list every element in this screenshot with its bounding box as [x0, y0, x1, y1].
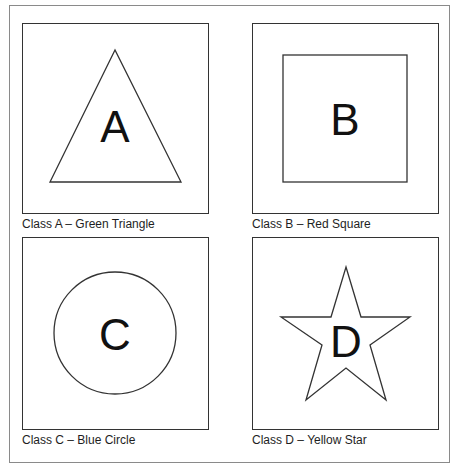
panel-d-caption: Class D – Yellow Star — [252, 433, 367, 447]
star-icon: D — [0, 0, 460, 472]
panel-d-letter: D — [330, 317, 362, 366]
